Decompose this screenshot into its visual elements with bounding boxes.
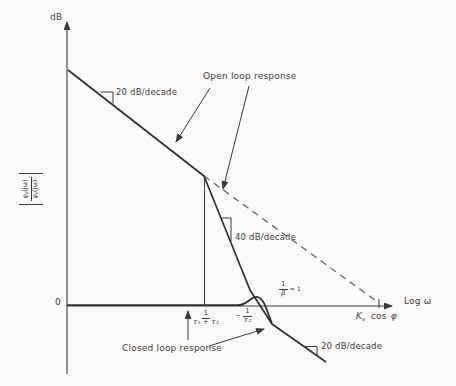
y-axis-unit-label: dB xyxy=(50,13,62,23)
zero-db-label: 0 xyxy=(55,298,61,308)
phase-ratio-fraction: φo(jω) φs(jω) xyxy=(22,177,40,200)
slope-20-upper-label: 20 dB/decade xyxy=(116,88,177,97)
abs-bar-left xyxy=(19,204,43,205)
slope-20-lower-label: 20 dB/decade xyxy=(321,342,382,351)
kv-cos-phi-label: Kv cos φ xyxy=(356,312,397,322)
y-axis-quantity-label: φo(jω) φs(jω) xyxy=(18,146,44,232)
abs-bar-right xyxy=(19,173,43,174)
x-axis-label: Log ω xyxy=(404,297,431,307)
tau2-tick-label: – 1 τ₂ xyxy=(236,308,252,325)
open-loop-response-label: Open loop response xyxy=(203,72,296,82)
open-loop-arrow-solid xyxy=(176,88,210,142)
tau1-tau2-tick-label: 1 τ₁ + τ₂ xyxy=(193,310,219,327)
closed-loop-response-label: Closed loop response xyxy=(122,344,222,354)
beta-label: 1 β = 1 xyxy=(279,281,301,298)
open-loop-arrow-dashed xyxy=(223,86,249,189)
slope-40-label: 40 dB/decade xyxy=(235,233,296,242)
plot-canvas xyxy=(0,0,456,386)
bode-plot-figure: dB φo(jω) φs(jω) 0 Log ω 20 dB/decade Op… xyxy=(0,0,456,386)
